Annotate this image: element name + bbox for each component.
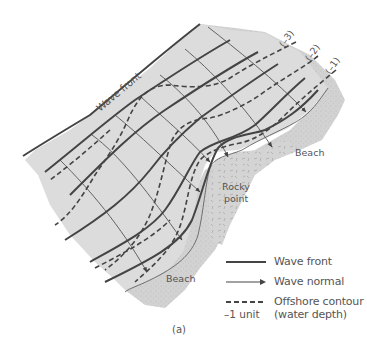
legend-item-wave-front: Wave front: [224, 253, 364, 273]
label-contour-3: (–3): [277, 28, 296, 49]
rocky-point-area: [208, 140, 300, 245]
label-rocky-point-2: point: [224, 193, 249, 204]
arrow-line-icon: [224, 275, 268, 289]
water-area: [25, 24, 328, 290]
legend-unit: –1 unit: [224, 308, 260, 320]
legend-label-2: (water depth): [274, 308, 347, 321]
legend: Wave front Wave normal Offshore contour …: [224, 253, 364, 327]
label-contour-1: (–1): [323, 55, 342, 76]
label-beach-lower: Beach: [166, 273, 195, 284]
legend-item-wave-normal: Wave normal: [224, 273, 364, 293]
solid-line-icon: [224, 255, 268, 269]
legend-item-offshore-contour: Offshore contour –1 unit (water depth): [224, 293, 364, 327]
legend-label: Offshore contour: [274, 295, 363, 308]
label-rocky-point-1: Rocky: [222, 181, 250, 192]
legend-label: Wave normal: [274, 275, 344, 288]
figure-caption: (a): [172, 324, 186, 335]
label-beach-upper: Beach: [295, 147, 324, 158]
dashed-line-icon: [224, 295, 268, 309]
label-contour-2: (–2): [303, 42, 322, 63]
legend-label: Wave front: [274, 255, 332, 268]
